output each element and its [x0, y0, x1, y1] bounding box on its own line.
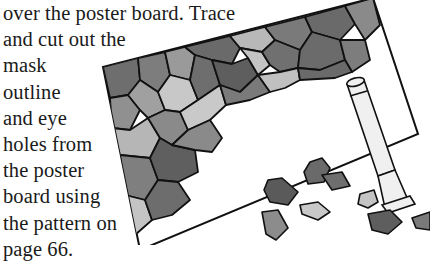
text-line: board using	[3, 183, 235, 209]
text-line: over the poster board. Trace	[3, 0, 235, 26]
text-line: mask	[3, 52, 235, 78]
text-line: and eye	[3, 105, 235, 131]
text-line: outline	[3, 79, 235, 105]
instruction-text: over the poster board. Trace and cut out…	[3, 0, 235, 262]
text-line: and cut out the	[3, 26, 235, 52]
text-line: the poster	[3, 157, 235, 183]
text-line: the pattern on	[3, 210, 235, 236]
text-line: page 66.	[3, 236, 235, 262]
text-line: holes from	[3, 131, 235, 157]
